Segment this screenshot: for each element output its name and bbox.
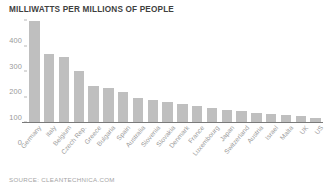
- bar: [162, 102, 172, 122]
- bar: [59, 57, 69, 122]
- x-axis-tick-label: Germany: [20, 124, 43, 150]
- bar: [281, 115, 291, 122]
- bar: [118, 92, 128, 122]
- y-axis-tick-label: 100: [9, 112, 22, 121]
- x-axis-tick-label: UK: [298, 124, 309, 136]
- bar: [266, 114, 276, 122]
- bar: [222, 110, 232, 122]
- bar: [177, 104, 187, 122]
- chart-title: MILLIWATTS PER MILLIONS OF PEOPLE: [9, 5, 174, 14]
- bar: [74, 71, 84, 122]
- bar: [207, 108, 217, 122]
- y-axis: 0100200300400: [0, 20, 27, 122]
- bar: [133, 98, 143, 122]
- x-axis-tick-label: Malta: [278, 124, 294, 141]
- bar: [236, 111, 246, 122]
- bar: [251, 113, 261, 122]
- y-axis-tick-label: 300: [9, 61, 22, 70]
- bar: [88, 86, 98, 122]
- bar: [44, 54, 54, 122]
- plot-area: [27, 20, 323, 122]
- chart-source: SOURCE: CLEANTECHNICA.COM: [9, 176, 115, 183]
- bar-chart-figure: MILLIWATTS PER MILLIONS OF PEOPLE 010020…: [0, 0, 331, 192]
- x-axis-line: [22, 122, 323, 123]
- x-axis-labels: GermanyItalyBelgiumCzech Rep.GreeceBulga…: [27, 124, 323, 170]
- bar: [103, 88, 113, 122]
- y-axis-tick-label: 400: [9, 36, 22, 45]
- x-axis-tick-label: US: [313, 124, 324, 136]
- y-axis-tick-label: 200: [9, 87, 22, 96]
- x-axis-tick-label: Israel: [264, 124, 280, 141]
- bar: [192, 106, 202, 122]
- bar: [148, 100, 158, 122]
- bar: [29, 21, 39, 122]
